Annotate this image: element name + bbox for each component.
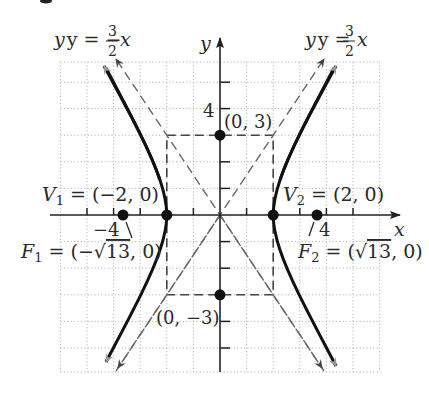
svg-text:3: 3 (108, 23, 117, 39)
y-axis-label: y (199, 32, 211, 54)
hyperbola-left-upper-arrow (104, 66, 160, 180)
svg-text:yy =: yy = (304, 28, 350, 50)
hyperbola-diagram: yy = − 3 2 x yy = 3 2 x y x 4 −4 4 (0, 3… (0, 0, 429, 396)
focus-f2-label: F2 = (√13, 0) (297, 240, 423, 265)
vertex-v1-label: V1 = (−2, 0) (42, 183, 159, 208)
covertex-bottom-dot (215, 289, 226, 300)
vertex-v2-label: V2 = (2, 0) (283, 183, 384, 208)
svg-text:2: 2 (345, 43, 354, 59)
x-tick-label-4: 4 (319, 219, 330, 240)
svg-text:2: 2 (108, 43, 117, 59)
svg-text:F1 = (−√13, 0): F1 = (−√13, 0) (20, 240, 162, 265)
vertex-v2-dot (268, 210, 279, 221)
f2-leader-line (309, 222, 314, 236)
svg-text:3: 3 (345, 23, 354, 39)
x-axis-label: x (394, 218, 405, 240)
x-tick-label-neg4: −4 (93, 219, 120, 240)
svg-text:V1 = (−2, 0): V1 = (−2, 0) (42, 183, 159, 208)
svg-text:V2 = (2, 0): V2 = (2, 0) (283, 183, 384, 208)
svg-text:x: x (357, 28, 368, 50)
svg-text:F2 = (√13, 0): F2 = (√13, 0) (297, 240, 423, 265)
asymptote-negative-label: yy = − 3 2 x (53, 23, 131, 59)
y-tick-label-4: 4 (203, 100, 214, 121)
f1-leader-line (126, 222, 132, 238)
svg-text:x: x (120, 28, 131, 50)
focus-f1-label: F1 = (−√13, 0) (20, 240, 162, 265)
covertex-top-label: (0, 3) (224, 111, 272, 132)
vertex-v1-dot (161, 210, 172, 221)
cropped-glyph (40, 0, 52, 4)
hyperbola-right-upper-arrow (280, 66, 336, 180)
covertex-bottom-label: (0, −3) (156, 307, 219, 328)
asymptote-positive-label: yy = 3 2 x (304, 23, 368, 59)
